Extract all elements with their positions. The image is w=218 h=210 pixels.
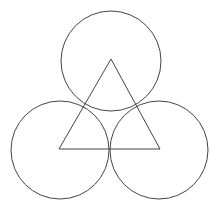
top-circle (61, 11, 161, 111)
left-circle (11, 101, 109, 199)
right-circle (110, 101, 208, 199)
equilateral-triangle (59, 59, 160, 149)
diagram-canvas (0, 0, 218, 210)
three-circles-triangle-diagram (0, 0, 218, 210)
